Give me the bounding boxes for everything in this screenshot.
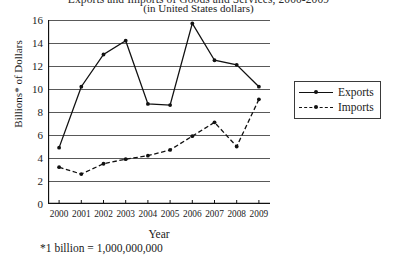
y-tick-label: 10 (21, 84, 43, 95)
y-tick-label: 2 (21, 176, 43, 187)
y-tick-label: 12 (21, 61, 43, 72)
data-point-imports-2003 (124, 157, 128, 161)
x-tick-label: 2008 (227, 210, 246, 219)
data-point-exports-2003 (124, 39, 128, 43)
legend-swatch-dashed-line-icon (299, 103, 333, 113)
chart-footnote: *1 billion = 1,000,000,000 (40, 242, 163, 254)
series-line-imports (59, 99, 259, 174)
data-point-exports-2008 (235, 63, 239, 67)
x-tick-label: 2009 (250, 210, 269, 219)
chart-figure: Exports and Imports of Goods and Service… (0, 0, 397, 258)
legend-item-exports[interactable]: Exports (299, 85, 374, 100)
x-tick-label: 2004 (139, 210, 158, 219)
x-tick-label: 2005 (161, 210, 180, 219)
x-tick-label: 2003 (116, 210, 135, 219)
y-tick-label: 16 (21, 15, 43, 26)
y-tick-label: 0 (21, 199, 43, 210)
legend-label-exports: Exports (338, 87, 374, 99)
series-line-exports (59, 23, 259, 147)
data-point-exports-2002 (102, 53, 106, 57)
data-point-exports-2006 (190, 22, 194, 26)
data-point-exports-2000 (57, 146, 61, 150)
chart-subtitle: (in United States dollars) (0, 2, 397, 14)
y-tick-label: 8 (21, 107, 43, 118)
legend-item-imports[interactable]: Imports (299, 100, 374, 115)
x-tick-label: 2006 (183, 210, 202, 219)
legend-label-imports: Imports (338, 102, 374, 114)
data-point-imports-2005 (168, 148, 172, 152)
data-point-exports-2001 (79, 85, 83, 89)
data-point-imports-2001 (79, 172, 83, 176)
data-point-exports-2009 (257, 85, 261, 89)
x-tick-label: 2001 (72, 210, 91, 219)
data-point-exports-2007 (213, 58, 217, 62)
data-point-imports-2004 (146, 154, 150, 158)
data-point-exports-2005 (168, 103, 172, 107)
data-point-imports-2009 (257, 97, 261, 101)
chart-canvas (48, 20, 270, 204)
y-tick-label: 6 (21, 130, 43, 141)
data-point-imports-2000 (57, 165, 61, 169)
y-tick-label: 4 (21, 153, 43, 164)
data-point-imports-2007 (213, 120, 217, 124)
plot-area: 0246810121416 20002001200220032004200520… (48, 20, 270, 204)
legend-swatch-solid-line-icon (299, 88, 333, 98)
x-tick-label: 2002 (94, 210, 113, 219)
x-tick-label: 2000 (50, 210, 69, 219)
chart-legend: Exports Imports (294, 81, 381, 119)
data-point-imports-2006 (190, 134, 194, 138)
data-point-imports-2008 (235, 145, 239, 149)
y-tick-label: 14 (21, 38, 43, 49)
data-point-exports-2004 (146, 102, 150, 106)
x-axis-label: Year (48, 228, 270, 240)
data-point-imports-2002 (102, 162, 106, 166)
x-tick-label: 2007 (205, 210, 224, 219)
